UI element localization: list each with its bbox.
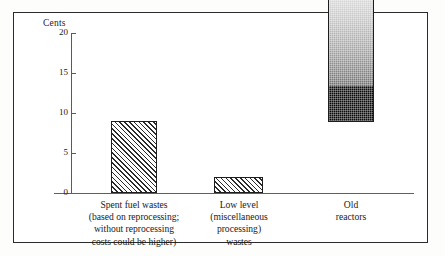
y-tick-mark-20 <box>71 33 76 34</box>
category-line: (miscellaneous <box>189 211 289 223</box>
category-line: Low level <box>189 199 289 211</box>
figure-container: Cents 20 15 10 5 0 <box>0 0 445 256</box>
y-tick-label-10: 10 <box>28 108 68 117</box>
category-line: processing) <box>189 223 289 235</box>
category-line: Old <box>306 199 396 211</box>
category-line: reactors <box>306 211 396 223</box>
bar-spent-fuel-wastes <box>111 121 157 193</box>
y-tick-mark-10 <box>71 113 76 114</box>
plot-area: Cents 20 15 10 5 0 <box>14 13 429 244</box>
y-tick-label-20: 20 <box>28 28 68 37</box>
y-tick-5: 5 <box>14 153 76 154</box>
bar-old-reactors <box>328 0 374 122</box>
chart-frame: Cents 20 15 10 5 0 <box>13 12 428 243</box>
y-tick-mark-5 <box>71 153 76 154</box>
category-label-old-reactors: Old reactors <box>306 199 396 223</box>
bar-low-level-wastes <box>214 177 263 193</box>
bar-old-reactors-black-segment <box>329 86 373 121</box>
y-tick-15: 15 <box>14 73 76 74</box>
y-tick-0: 0 <box>14 193 76 194</box>
y-tick-20: 20 <box>14 33 76 34</box>
y-tick-mark-15 <box>71 73 76 74</box>
y-tick-label-0: 0 <box>28 188 68 197</box>
x-axis-line <box>54 193 414 194</box>
category-line: wastes <box>189 236 289 248</box>
category-label-low-level-wastes: Low level (miscellaneous processing) was… <box>189 199 289 248</box>
y-tick-label-15: 15 <box>28 68 68 77</box>
y-tick-10: 10 <box>14 113 76 114</box>
y-tick-label-5: 5 <box>28 148 68 157</box>
